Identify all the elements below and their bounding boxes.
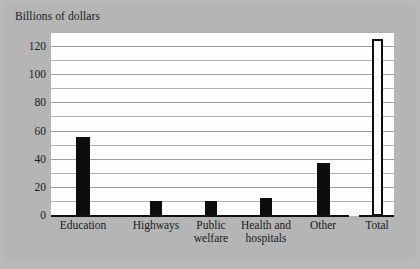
bar-other bbox=[317, 163, 330, 216]
gridline-130 bbox=[51, 32, 394, 33]
plot-area bbox=[51, 33, 394, 216]
bar-education bbox=[76, 137, 90, 216]
gridline-10 bbox=[51, 201, 394, 202]
gridline-30 bbox=[51, 173, 394, 174]
gridline-60 bbox=[51, 131, 394, 132]
category-label-education: Education bbox=[50, 219, 116, 232]
y-tick-label-40: 40 bbox=[6, 154, 46, 166]
x-axis-baseline-categories bbox=[51, 215, 349, 217]
x-axis-category-labels: EducationHighwaysPublicwelfareHealth and… bbox=[51, 219, 394, 255]
bar-health-and-hospitals bbox=[260, 198, 272, 216]
y-tick-label-120: 120 bbox=[6, 41, 46, 53]
y-tick-label-80: 80 bbox=[6, 97, 46, 109]
gridline-50 bbox=[51, 145, 394, 146]
y-tick-label-20: 20 bbox=[6, 182, 46, 194]
chart-figure-inner: Billions of dollars 120100806040200 Educ… bbox=[4, 4, 415, 260]
gridline-20 bbox=[51, 187, 394, 188]
gridline-40 bbox=[51, 159, 394, 160]
bar-public-welfare bbox=[205, 201, 217, 216]
y-tick-label-100: 100 bbox=[6, 69, 46, 81]
gridline-100 bbox=[51, 74, 394, 75]
gridline-90 bbox=[51, 88, 394, 89]
chart-figure: Billions of dollars 120100806040200 Educ… bbox=[0, 0, 420, 269]
bar-highways bbox=[150, 201, 162, 216]
gridline-110 bbox=[51, 60, 394, 61]
gridline-80 bbox=[51, 102, 394, 103]
x-axis-baseline-total bbox=[359, 215, 394, 217]
gridline-70 bbox=[51, 116, 394, 117]
y-axis-title: Billions of dollars bbox=[15, 10, 100, 22]
gridline-120 bbox=[51, 46, 394, 47]
y-tick-label-60: 60 bbox=[6, 126, 46, 138]
bar-total bbox=[372, 39, 383, 216]
category-label-total: Total bbox=[344, 219, 410, 232]
y-tick-label-0: 0 bbox=[6, 210, 46, 222]
